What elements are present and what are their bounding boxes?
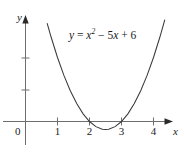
equation-term-plus-six: + 6 [118, 29, 136, 41]
x-tick-label-3: 3 [114, 126, 130, 137]
equation-equals: = [74, 29, 86, 41]
x-tick-label-4: 4 [146, 126, 162, 137]
x-tick-label-1: 1 [50, 126, 66, 137]
equation-annotation: y = x2 − 5x + 6 [69, 30, 136, 42]
origin-label: 0 [15, 126, 21, 137]
equation-term-minus-five: − 5 [95, 29, 113, 41]
parabola-figure: y x 0 1 2 3 4 y = x2 − 5x + 6 [0, 0, 184, 155]
y-axis-arrowhead [22, 15, 28, 24]
x-tick-label-2: 2 [82, 126, 98, 137]
x-axis-label: x [173, 126, 178, 137]
x-axis-arrowhead [165, 118, 174, 124]
y-axis-label: y [17, 12, 22, 23]
